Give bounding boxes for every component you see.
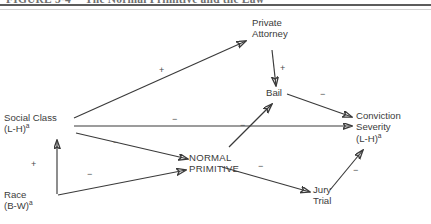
sign-social-to-conviction: − — [172, 115, 177, 124]
node-conviction-severity-line3: (L-H)a — [356, 133, 401, 144]
node-jury-trial: Jury Trial — [313, 184, 331, 207]
sign-race-to-social: + — [31, 160, 36, 169]
node-normal-primitive-line2: PRIMITIVE — [189, 163, 239, 174]
sign-primitive-to-bail: − — [240, 121, 245, 130]
figure-container: FIGURE 5-4The Normal Primitive and the L… — [0, 0, 431, 224]
node-private-attorney-line2: Attorney — [252, 28, 288, 39]
sign-jury-to-conviction: − — [353, 166, 358, 175]
edge-social-to-attorney — [74, 41, 246, 118]
sign-race-to-primitive: − — [87, 170, 92, 179]
sign-social-to-attorney: + — [159, 66, 164, 75]
node-conviction-severity: Conviction Severity (L-H)a — [356, 110, 401, 144]
node-conviction-severity-line1: Conviction — [356, 110, 401, 121]
node-normal-primitive-line1: NORMAL — [189, 152, 239, 163]
node-jury-trial-line2: Trial — [313, 195, 331, 206]
sign-primitive-to-jury: − — [258, 162, 263, 171]
sign-attorney-to-bail: + — [280, 64, 285, 73]
edge-race-to-primitive — [58, 170, 186, 195]
node-social-class: Social Class (L-H)a — [4, 112, 57, 135]
sign-social-to-primitive: − — [113, 138, 118, 147]
node-bail-line1: Bail — [266, 87, 282, 98]
node-normal-primitive: NORMAL PRIMITIVE — [189, 152, 239, 175]
edge-attorney-to-bail — [272, 50, 276, 86]
edge-social-to-primitive — [76, 133, 188, 159]
node-social-class-line2: (L-H)a — [4, 123, 57, 134]
node-private-attorney-line1: Private — [252, 17, 288, 28]
node-jury-trial-line1: Jury — [313, 184, 331, 195]
node-social-class-line1: Social Class — [4, 112, 57, 123]
node-private-attorney: Private Attorney — [252, 17, 288, 40]
node-race: Race (B-W)a — [4, 189, 33, 212]
node-race-line2: (B-W)a — [4, 200, 33, 211]
sign-bail-to-conviction: − — [320, 90, 325, 99]
node-bail: Bail — [266, 87, 282, 98]
